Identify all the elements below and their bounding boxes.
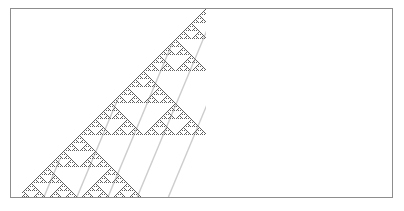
plot-frame [10, 8, 393, 198]
chart-description: Elementary cellular automaton Rule 90 ev… [0, 0, 1, 1]
cellular-automaton-canvas [11, 9, 392, 197]
figure-caption [0, 0, 1, 1]
figure-root: Elementary cellular automaton Rule 90 ev… [0, 0, 404, 211]
